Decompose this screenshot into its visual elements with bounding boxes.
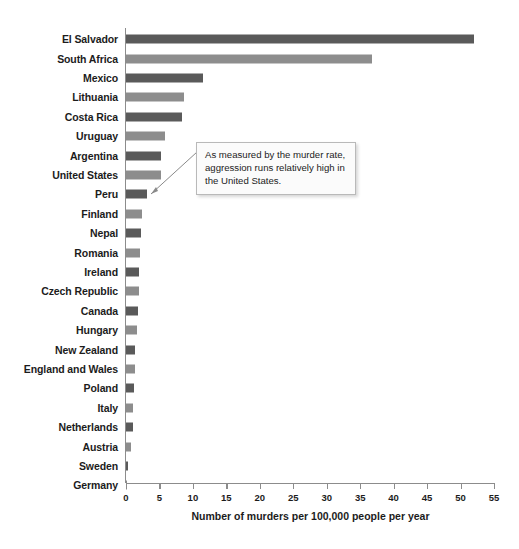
- murder-rate-bar-chart: El SalvadorSouth AfricaMexicoLithuaniaCo…: [0, 0, 519, 549]
- bar: [126, 132, 165, 141]
- bar-category-label: Czech Republic: [41, 285, 118, 297]
- x-axis-tick: [394, 483, 395, 489]
- bar-category-label: Netherlands: [58, 421, 118, 433]
- bar-category-label: New Zealand: [55, 344, 118, 356]
- bar-category-label: Nepal: [90, 227, 118, 239]
- bar-category-label: Canada: [81, 305, 118, 317]
- x-axis-title: Number of murders per 100,000 people per…: [126, 510, 495, 522]
- bar-category-label: Finland: [81, 208, 118, 220]
- x-axis-tick: [126, 483, 127, 489]
- chart-row: El Salvador: [126, 30, 494, 49]
- bar-category-label: South Africa: [57, 53, 118, 65]
- bar: [126, 73, 203, 82]
- bar: [126, 326, 137, 335]
- bar: [126, 151, 161, 160]
- chart-row: Austria: [126, 437, 494, 456]
- chart-row: Czech Republic: [126, 282, 494, 301]
- bar: [126, 423, 133, 432]
- chart-row: Poland: [126, 379, 494, 398]
- chart-row: Nepal: [126, 224, 494, 243]
- bar: [126, 287, 139, 296]
- bar: [126, 190, 147, 199]
- x-axis-tick: [427, 483, 428, 489]
- bar: [126, 267, 139, 276]
- x-axis-tick: [293, 483, 294, 489]
- x-axis-tick-label: 0: [123, 492, 128, 503]
- bar-category-label: Poland: [84, 382, 118, 394]
- chart-row: England and Wales: [126, 359, 494, 378]
- chart-row: Hungary: [126, 321, 494, 340]
- x-axis-tick: [226, 483, 227, 489]
- bar-category-label: Austria: [83, 441, 118, 453]
- bar-category-label: Lithuania: [72, 91, 118, 103]
- x-axis-tick: [193, 483, 194, 489]
- chart-row: New Zealand: [126, 340, 494, 359]
- bar-category-label: England and Wales: [24, 363, 118, 375]
- chart-row: Ireland: [126, 262, 494, 281]
- chart-row: Lithuania: [126, 88, 494, 107]
- x-axis-tick: [461, 483, 462, 489]
- x-axis-tick-label: 40: [388, 492, 399, 503]
- bar-category-label: Sweden: [79, 460, 118, 472]
- chart-row: Finland: [126, 204, 494, 223]
- bar-category-label: Hungary: [76, 324, 118, 336]
- x-axis-tick: [360, 483, 361, 489]
- x-axis-tick-label: 15: [221, 492, 232, 503]
- bar: [126, 93, 184, 102]
- x-axis-tick-label: 55: [489, 492, 500, 503]
- bar: [126, 54, 372, 63]
- bar: [126, 248, 140, 257]
- chart-row: South Africa: [126, 49, 494, 68]
- bar: [126, 442, 131, 451]
- bar-category-label: Argentina: [70, 150, 118, 162]
- bar: [126, 170, 161, 179]
- chart-row: Romania: [126, 243, 494, 262]
- x-axis-tick: [260, 483, 261, 489]
- x-axis-tick-label: 45: [422, 492, 433, 503]
- chart-row: Italy: [126, 398, 494, 417]
- bar-category-label: Mexico: [83, 72, 118, 84]
- x-axis-tick-label: 30: [321, 492, 332, 503]
- x-axis-tick-label: 10: [188, 492, 199, 503]
- plot-area: El SalvadorSouth AfricaMexicoLithuaniaCo…: [126, 28, 494, 483]
- bar-category-label: Uruguay: [76, 130, 118, 142]
- bar-category-label: Ireland: [84, 266, 118, 278]
- bar-category-label: Germany: [73, 479, 118, 491]
- bar-category-label: Peru: [95, 188, 118, 200]
- bar-category-label: Italy: [97, 402, 118, 414]
- bar: [126, 209, 142, 218]
- annotation-callout: As measured by the murder rate, aggressi…: [196, 142, 356, 195]
- x-axis-tick: [327, 483, 328, 489]
- bar-category-label: Romania: [74, 247, 118, 259]
- bar: [126, 384, 134, 393]
- bar: [126, 35, 474, 44]
- chart-row: Germany: [126, 476, 494, 495]
- chart-row: Mexico: [126, 68, 494, 87]
- x-axis-tick: [159, 483, 160, 489]
- x-axis-tick-label: 20: [255, 492, 266, 503]
- x-axis-tick-label: 25: [288, 492, 299, 503]
- bar: [126, 364, 135, 373]
- x-axis-tick-label: 35: [355, 492, 366, 503]
- bar-category-label: El Salvador: [62, 33, 118, 45]
- x-axis-tick: [494, 483, 495, 489]
- chart-row: Netherlands: [126, 418, 494, 437]
- bar: [126, 229, 141, 238]
- bar: [126, 403, 133, 412]
- chart-row: Costa Rica: [126, 107, 494, 126]
- x-axis-tick-label: 5: [157, 492, 162, 503]
- bar-category-label: Costa Rica: [65, 111, 118, 123]
- chart-row: Sweden: [126, 456, 494, 475]
- chart-row: Canada: [126, 301, 494, 320]
- x-axis-tick-label: 50: [455, 492, 466, 503]
- bar: [126, 112, 182, 121]
- bar-category-label: United States: [52, 169, 118, 181]
- bar: [126, 461, 128, 470]
- bar: [126, 345, 135, 354]
- bar: [126, 306, 138, 315]
